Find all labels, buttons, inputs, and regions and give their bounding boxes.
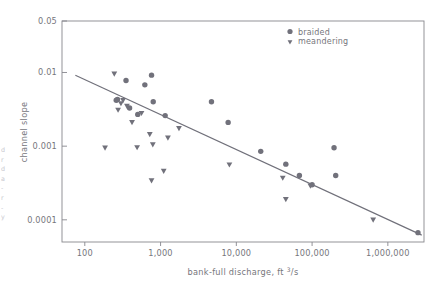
y-tick-label-1: 0.01 [38,67,57,77]
legend-marker-braided [287,29,292,34]
y-axis-title: channel slope [19,102,29,163]
data-point-meandering-7 [134,145,140,150]
y-tick-label-2: 0.001 [33,141,57,151]
data-point-braided-10 [225,120,230,125]
data-point-meandering-13 [165,135,171,140]
data-point-braided-13 [297,173,302,178]
data-point-braided-7 [151,99,156,104]
x-tick-label-3: 100,000 [294,248,329,258]
x-axis-ticks [85,242,388,246]
data-point-meandering-9 [147,132,153,137]
data-point-braided-6 [149,72,154,77]
data-point-meandering-1 [111,72,117,77]
x-tick-label-2: 10,000 [221,248,251,258]
data-point-meandering-12 [161,169,167,174]
figure-container: d r d a - r - y 1001,00010,000100,0001,0… [0,0,443,292]
legend-label-braided: braided [298,28,330,37]
data-point-braided-2 [123,78,128,83]
data-point-meandering-16 [280,176,286,181]
data-point-meandering-2 [115,108,121,113]
data-point-braided-17 [415,230,420,235]
data-point-meandering-14 [176,126,182,131]
x-axis-tick-labels: 1001,00010,000100,0001,000,000 [77,248,410,258]
plot-frame [62,21,424,242]
data-point-braided-9 [209,99,214,104]
legend: braided meandering [287,28,348,47]
x-axis-title: bank-full discharge, ft 3/s [188,266,299,277]
x-tick-label-4: 1,000,000 [366,248,409,258]
legend-marker-meandering [288,40,293,44]
data-point-braided-5 [142,82,147,87]
data-point-meandering-6 [129,120,135,125]
scatter-plot: 1001,00010,000100,0001,000,000 0.050.010… [0,0,443,292]
x-tick-label-0: 100 [77,248,93,258]
y-tick-label-3: 0.0001 [27,215,57,225]
data-point-braided-11 [258,149,263,154]
data-point-braided-16 [333,173,338,178]
data-point-braided-12 [283,161,288,166]
data-point-meandering-17 [283,197,289,202]
data-point-meandering-15 [227,162,233,167]
data-point-meandering-0 [102,146,108,151]
trend-line [75,75,421,235]
legend-label-meandering: meandering [298,37,348,46]
x-tick-label-1: 1,000 [148,248,172,258]
series-braided-points [114,72,421,235]
y-tick-label-0: 0.05 [38,16,57,26]
y-axis-ticks [62,21,67,220]
data-point-meandering-10 [149,178,155,183]
data-point-braided-8 [162,113,167,118]
data-point-braided-15 [331,145,336,150]
y-axis-tick-labels: 0.050.010.0010.0001 [27,16,57,225]
data-point-meandering-11 [150,142,156,147]
data-point-meandering-19 [370,218,376,223]
